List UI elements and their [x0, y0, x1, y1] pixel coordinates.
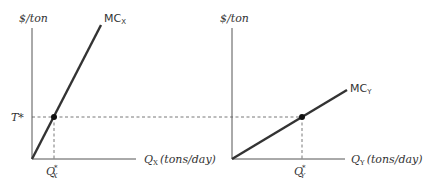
right-y-axis-label: $/ton — [220, 12, 249, 25]
qy-axis-label: QY(tons/day) — [351, 153, 423, 167]
left-y-axis-label: $/ton — [19, 12, 48, 25]
mcy-label: MCY — [350, 82, 372, 96]
qystar-label: Q*Y — [294, 164, 307, 180]
qx-axis-label: QX(tons/day) — [144, 153, 216, 167]
mcx-label: MCX — [104, 12, 126, 26]
mcy-curve — [232, 90, 347, 159]
equilibrium-point-y — [299, 114, 305, 120]
qxstar-label: Q*X — [46, 164, 59, 180]
diagram-canvas: $/ton MCX T* QX(tons/day) Q*X $/ton MCY … — [0, 0, 423, 187]
mcx-curve — [32, 25, 101, 159]
tstar-label: T* — [11, 111, 24, 124]
equilibrium-point-x — [51, 114, 57, 120]
